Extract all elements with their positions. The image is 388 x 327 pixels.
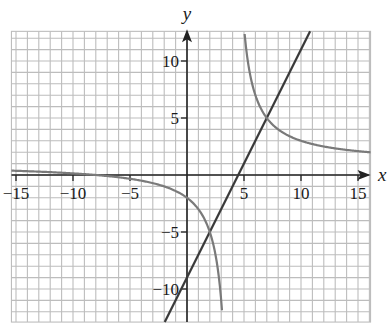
hyperbola-right-branch: [245, 34, 371, 152]
y-tick-label: −10: [152, 280, 179, 299]
x-tick-label: −5: [121, 184, 139, 203]
graph: −15−10−551015−10−5510xy: [0, 0, 388, 327]
axes: [11, 29, 370, 322]
y-tick-label: 10: [162, 52, 179, 71]
grid: [11, 31, 370, 322]
x-tick-label: −15: [3, 184, 30, 203]
grid-border: [11, 31, 370, 322]
x-tick-label: 5: [240, 184, 249, 203]
curves: [11, 31, 370, 322]
x-tick-label: −10: [60, 184, 87, 203]
y-tick-label: −5: [161, 223, 179, 242]
x-tick-label: 15: [350, 184, 367, 203]
y-tick-label: 5: [171, 109, 180, 128]
x-axis-label: x: [377, 164, 387, 185]
x-tick-label: 10: [293, 184, 310, 203]
y-axis-label: y: [181, 3, 192, 24]
